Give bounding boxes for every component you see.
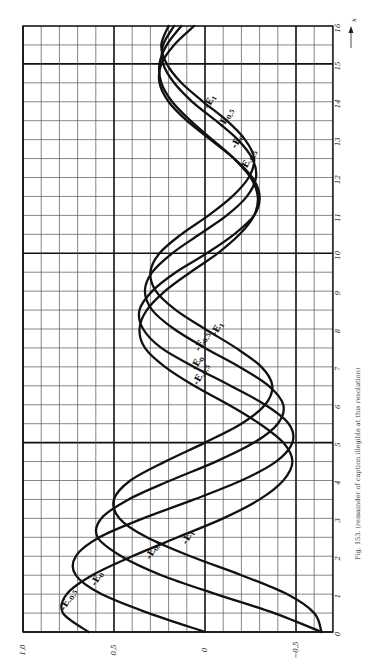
x-tick-label: 0 bbox=[334, 631, 342, 636]
x-axis-label: x bbox=[350, 18, 358, 22]
y-tick-label: −0,5 bbox=[292, 641, 300, 659]
x-tick-label: 12 bbox=[334, 175, 342, 184]
x-tick-label: 7 bbox=[334, 366, 342, 371]
x-tick-label: 6 bbox=[334, 404, 342, 409]
x-tick-label: 10 bbox=[334, 250, 342, 259]
curve-labels: -E-0,5-E0-E0,5-E1-E-0,5-E0-E0,5-E1-E-0,5… bbox=[58, 93, 259, 613]
x-tick-label: 11 bbox=[334, 213, 342, 222]
chart-grid bbox=[23, 26, 333, 632]
curve-label: -E1 bbox=[202, 93, 219, 111]
weber-function-chart: -E-0,5-E0-E0,5-E1-E-0,5-E0-E0,5-E1-E-0,5… bbox=[0, 0, 368, 671]
y-tick-label: 0 bbox=[201, 647, 209, 652]
x-tick-label: 5 bbox=[334, 442, 342, 447]
x-tick-label: 14 bbox=[334, 99, 342, 108]
x-tick-label: 1 bbox=[334, 594, 342, 598]
x-tick-label: 9 bbox=[334, 290, 342, 295]
x-tick-label: 13 bbox=[334, 137, 342, 146]
y-tick-label: 1,0 bbox=[19, 644, 27, 656]
arrow-head-icon bbox=[349, 26, 354, 33]
axis-tick-labels: 0123456789101112131415161,00,50−0,5 bbox=[19, 23, 342, 658]
figure-caption: Fig. 153. (remainder of caption illegibl… bbox=[354, 367, 362, 560]
x-axis-arrow: x bbox=[349, 18, 359, 48]
x-tick-label: 15 bbox=[334, 61, 342, 70]
x-tick-label: 4 bbox=[334, 480, 342, 485]
x-tick-label: 8 bbox=[334, 328, 342, 333]
x-tick-label: 3 bbox=[334, 518, 342, 523]
x-tick-label: 2 bbox=[334, 555, 342, 561]
y-tick-label: 0,5 bbox=[110, 644, 118, 656]
curve-label: -E-0,5 bbox=[58, 587, 79, 613]
x-tick-label: 16 bbox=[334, 23, 342, 32]
